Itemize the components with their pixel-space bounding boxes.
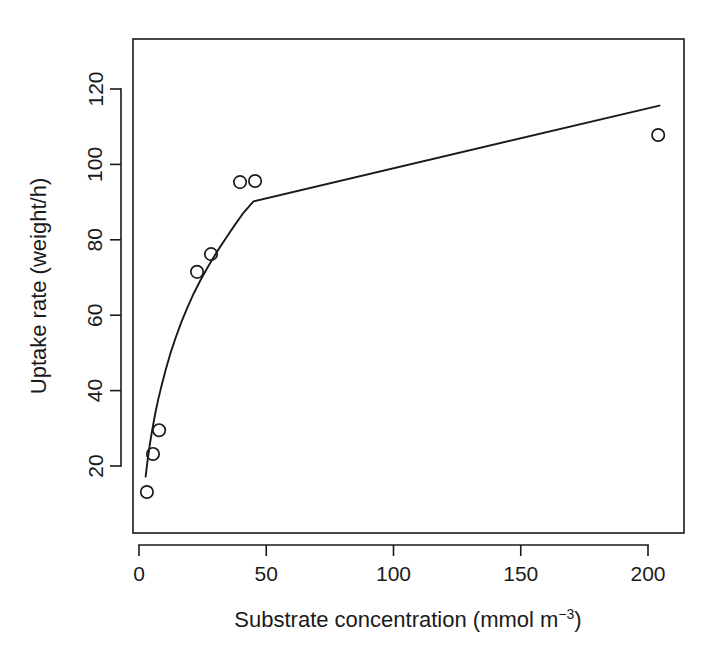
data-points [141, 129, 665, 498]
x-axis-title: Substrate concentration (mmol m−3) [234, 606, 581, 632]
y-axis-ticks [110, 89, 121, 466]
y-tick-label: 20 [84, 454, 107, 477]
fitted-curve [146, 106, 660, 477]
y-tick-label: 60 [84, 304, 107, 327]
x-tick-label: 100 [376, 562, 411, 585]
y-tick-label: 100 [84, 147, 107, 182]
x-tick-label: 50 [255, 562, 278, 585]
data-point [249, 175, 261, 187]
data-point [141, 486, 153, 498]
y-tick-label: 120 [84, 71, 107, 106]
y-tick-label: 80 [84, 228, 107, 251]
data-point [153, 424, 165, 436]
x-axis-ticks [139, 545, 648, 556]
y-axis-title: Uptake rate (weight/h) [26, 178, 51, 394]
plot-frame [133, 39, 684, 533]
y-tick-label: 40 [84, 379, 107, 402]
data-point [191, 266, 203, 278]
x-tick-label: 0 [133, 562, 145, 585]
x-axis-tick-labels: 050100150200 [133, 562, 665, 585]
x-tick-label: 200 [630, 562, 665, 585]
y-axis-tick-labels: 20406080100120 [84, 71, 107, 477]
x-tick-label: 150 [503, 562, 538, 585]
data-point [234, 176, 246, 188]
chart-figure: 050100150200 20406080100120 Substrate co… [0, 0, 716, 652]
data-point [652, 129, 664, 141]
uptake-rate-scatter-chart: 050100150200 20406080100120 Substrate co… [0, 0, 716, 652]
